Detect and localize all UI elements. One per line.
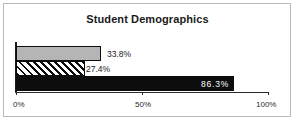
bar-2-hatched[interactable]	[16, 61, 85, 76]
x-tick-label-100: 100%	[256, 100, 276, 109]
bar-row-1: 33.8%	[16, 46, 268, 61]
x-tick-50	[142, 92, 143, 95]
bar-3-value-label: 86.3%	[201, 79, 229, 89]
x-tick-label-50: 50%	[135, 100, 151, 109]
bar-1-gray[interactable]	[16, 46, 101, 61]
x-tick-label-0: 0%	[13, 100, 25, 109]
chart-title: Student Demographics	[0, 13, 295, 25]
bar-row-3: 86.3%	[16, 76, 268, 91]
bar-2-value-label: 27.4%	[85, 64, 111, 74]
x-tick-100	[268, 92, 269, 95]
bar-row-2: 27.4%	[16, 61, 268, 76]
chart-figure: Student Demographics 0% 50% 100% 33.8% 2…	[0, 0, 295, 120]
bar-1-value-label: 33.8%	[107, 49, 131, 59]
x-tick-0	[16, 92, 17, 95]
